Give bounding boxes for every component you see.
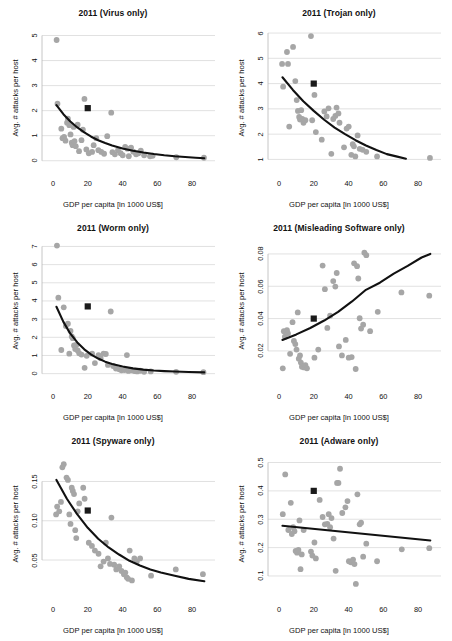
data-point xyxy=(320,263,326,269)
data-point xyxy=(56,508,62,514)
data-point xyxy=(285,61,291,67)
data-point xyxy=(337,120,343,126)
y-tick-text: 0.5 xyxy=(256,457,265,467)
multi-panel-scatter-figure: 2011 (Virus only)012345020406080Avg. # a… xyxy=(0,0,452,641)
data-point xyxy=(309,117,315,123)
data-point xyxy=(137,556,143,562)
data-point xyxy=(353,581,359,587)
data-point xyxy=(337,466,343,472)
data-point xyxy=(80,485,86,491)
y-tick-text: 0.10 xyxy=(30,514,39,528)
data-point xyxy=(334,105,340,111)
highlight-marker xyxy=(311,81,317,87)
data-point xyxy=(308,33,314,39)
y-tick-text: 2 xyxy=(30,335,39,339)
x-tick-label: 80 xyxy=(414,605,422,614)
x-tick-label: 60 xyxy=(379,179,387,188)
data-point xyxy=(327,524,333,530)
data-point xyxy=(299,552,305,558)
x-axis-label: GDP per capita [in 1000 US$] xyxy=(0,626,226,635)
x-tick-label: 40 xyxy=(344,392,352,401)
data-point xyxy=(352,153,358,159)
data-point xyxy=(315,347,321,353)
y-tick-text: 0.02 xyxy=(256,344,265,358)
data-point xyxy=(326,105,332,111)
data-point xyxy=(360,554,366,560)
y-tick-text: 4 xyxy=(256,82,265,86)
data-point xyxy=(341,144,347,150)
data-point xyxy=(328,151,334,157)
data-point xyxy=(286,124,292,130)
y-tick-text: 2 xyxy=(30,109,39,113)
data-point xyxy=(357,315,363,321)
x-axis-label: GDP per capita [in 1000 US$] xyxy=(226,413,452,422)
y-tick-text: 4 xyxy=(30,299,39,303)
data-point xyxy=(66,351,72,357)
y-axis-label: Avg. # attacks per host xyxy=(237,256,246,366)
panel-misleading-software: 2011 (Misleading Software only)0.020.040… xyxy=(226,215,452,428)
data-point xyxy=(66,512,72,518)
scatter-points xyxy=(54,37,207,161)
data-point xyxy=(346,124,352,130)
data-point xyxy=(280,365,286,371)
x-tick-label: 20 xyxy=(84,392,92,401)
data-point xyxy=(63,138,69,144)
y-tick-text: 0 xyxy=(30,159,39,163)
data-point xyxy=(68,521,74,527)
data-point xyxy=(349,354,355,360)
data-point xyxy=(108,110,114,116)
data-point xyxy=(104,133,110,139)
data-point xyxy=(61,461,67,467)
data-point xyxy=(82,365,88,371)
panel-worm: 2011 (Worm only)01234567020406080Avg. # … xyxy=(0,215,226,428)
data-point xyxy=(330,278,336,284)
x-tick-label: 40 xyxy=(118,392,126,401)
data-point xyxy=(363,252,369,258)
x-tick-label: 20 xyxy=(310,179,318,188)
data-point xyxy=(399,289,405,295)
x-tick-label: 40 xyxy=(118,605,126,614)
y-tick-text: 2 xyxy=(256,132,265,136)
y-tick-text: 0.08 xyxy=(256,247,265,261)
y-axis-label: Avg. # attacks per host xyxy=(11,469,20,579)
scatter-points xyxy=(53,461,206,583)
data-point xyxy=(329,515,335,521)
data-point xyxy=(288,500,294,506)
y-tick-text: 6 xyxy=(256,31,265,35)
x-tick-label: 0 xyxy=(51,605,55,614)
highlight-marker xyxy=(311,315,317,321)
y-tick-text: 1 xyxy=(30,353,39,357)
scatter-points xyxy=(280,466,432,587)
x-tick-label: 40 xyxy=(344,605,352,614)
x-tick-label: 60 xyxy=(379,392,387,401)
x-tick-label: 60 xyxy=(153,605,161,614)
data-point xyxy=(72,527,78,533)
data-point xyxy=(367,328,373,334)
data-point xyxy=(303,117,309,123)
x-tick-label: 40 xyxy=(118,179,126,188)
x-axis-label: GDP per capita [in 1000 US$] xyxy=(0,200,226,209)
data-point xyxy=(375,309,381,315)
x-axis-label: GDP per capita [in 1000 US$] xyxy=(226,200,452,209)
x-tick-label: 80 xyxy=(188,392,196,401)
x-tick-label: 80 xyxy=(414,392,422,401)
data-point xyxy=(351,143,357,149)
highlight-marker xyxy=(85,303,91,309)
data-point xyxy=(317,497,323,503)
y-tick-text: 0 xyxy=(30,372,39,376)
data-point xyxy=(312,355,318,361)
data-point xyxy=(295,310,301,316)
data-point xyxy=(363,149,369,155)
data-point xyxy=(73,535,79,541)
data-point xyxy=(343,504,349,510)
x-tick-label: 80 xyxy=(188,179,196,188)
data-point xyxy=(120,152,126,158)
data-point xyxy=(355,491,361,497)
data-point xyxy=(280,84,286,90)
data-point xyxy=(313,555,319,561)
fit-curve xyxy=(56,480,204,581)
highlight-marker xyxy=(85,507,91,513)
y-tick-text: 3 xyxy=(30,84,39,88)
data-point xyxy=(124,352,130,358)
x-tick-label: 0 xyxy=(277,179,281,188)
